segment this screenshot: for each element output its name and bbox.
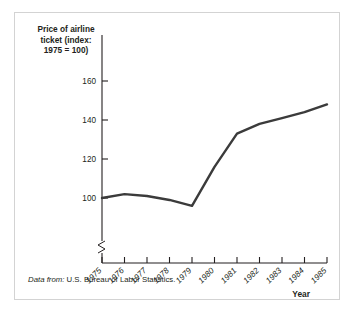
- x-tick-label-1985: 1985: [309, 266, 329, 286]
- x-tick-label-1982: 1982: [242, 266, 262, 286]
- y-axis-break-icon: [98, 241, 105, 253]
- y-axis-ticks: [102, 81, 108, 198]
- x-tick-label-1980: 1980: [197, 266, 217, 286]
- x-tick-label-1981: 1981: [219, 266, 238, 285]
- figure-frame: Price of airline ticket (index: 1975 = 1…: [14, 12, 340, 300]
- x-tick-label-1979: 1979: [174, 266, 194, 286]
- y-tick-label-160: 160: [82, 77, 96, 86]
- x-axis-ticks: [102, 257, 327, 263]
- x-axis-title: Year: [292, 289, 310, 299]
- y-tick-label-140: 140: [82, 116, 96, 125]
- source-note-text: U.S. Bureau of Labor Statistics.: [64, 275, 175, 284]
- x-tick-label-1983: 1983: [264, 266, 284, 286]
- source-note-prefix: Data from:: [28, 275, 64, 284]
- source-note: Data from: U.S. Bureau of Labor Statisti…: [28, 275, 175, 284]
- x-tick-label-1984: 1984: [287, 266, 307, 286]
- y-tick-label-120: 120: [82, 155, 96, 164]
- y-tick-label-100: 100: [82, 194, 96, 203]
- chart-plot: 160 140 120 100 1975 1976 1977 1978 1979…: [15, 13, 341, 301]
- data-series-line: [102, 104, 327, 205]
